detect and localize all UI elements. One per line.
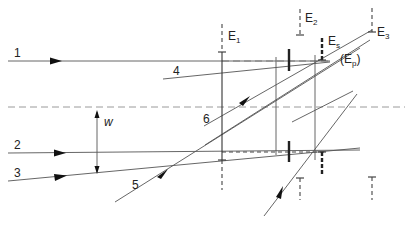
ray-2-label: 2 [14,138,21,152]
optics-diagram: 1 2 3 4 5 6 E1 E2 Es (Ep) [0,0,407,225]
ray-5-arrow-icon [157,169,168,179]
ray-3-arrow-icon [54,174,67,181]
ray-4-label: 4 [173,64,180,78]
ray-6-label: 6 [203,112,210,126]
element-e3-label: E3 [377,25,390,41]
ray-5-label: 5 [132,178,139,192]
element-ep-label: (Ep) [340,52,360,68]
ray-4 [163,62,330,79]
ray-1-arrow-icon [50,58,62,65]
lens-e1-label: E1 [228,29,241,45]
ray-3-label: 3 [14,166,21,180]
ray-1-label: 1 [14,46,21,60]
ray-2-arrow-icon [54,150,66,157]
ray-lower-oblique-arrow-icon [276,186,283,199]
width-label: w [104,115,114,129]
ray-6 [204,30,372,126]
element-es-label: Es [328,34,340,50]
element-e2-label: E2 [305,11,318,27]
width-arrow-up-icon [95,110,100,118]
